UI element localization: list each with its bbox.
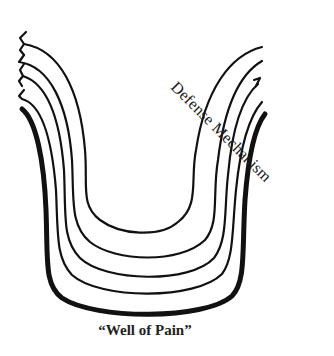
- well-of-pain-diagram: [0, 0, 334, 356]
- layer-3: [19, 64, 260, 277]
- layer-2: [19, 55, 262, 258]
- well-of-pain-label: “Well of Pain”: [0, 322, 290, 339]
